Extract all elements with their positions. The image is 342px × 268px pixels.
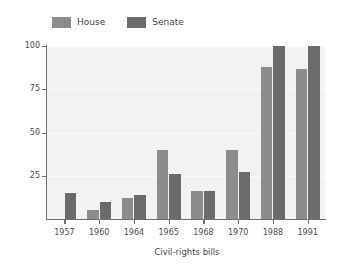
legend-entry-senate: Senate	[127, 17, 184, 28]
bar-house-1960	[87, 210, 99, 219]
y-tick: 75	[0, 89, 46, 90]
y-tick-mark	[42, 176, 46, 177]
bar-house-1965	[157, 150, 169, 219]
bar-senate-1988	[273, 46, 285, 219]
x-tick-mark	[308, 220, 309, 224]
y-tick: 25	[0, 176, 46, 177]
bar-house-1988	[261, 67, 273, 219]
bar-senate-1970	[239, 172, 251, 219]
bar-house-1991	[296, 69, 308, 220]
legend-swatch-senate	[127, 17, 146, 28]
x-tick-label-1964: 1964	[124, 228, 144, 237]
x-axis-line	[46, 219, 326, 220]
x-tick-label-1988: 1988	[263, 228, 283, 237]
legend-label-senate: Senate	[152, 17, 184, 28]
y-tick-label: 50	[30, 128, 40, 137]
y-tick-label: 25	[30, 171, 40, 180]
bar-chart: House Senate Percentage supporting bill …	[0, 0, 342, 268]
legend-entry-house: House	[52, 17, 105, 28]
bar-house-1968	[191, 191, 203, 219]
bar-senate-1960	[100, 202, 112, 219]
y-tick-mark	[42, 89, 46, 90]
plot-area	[47, 46, 325, 219]
y-tick-label: 100	[25, 41, 40, 50]
bar-senate-1965	[169, 174, 181, 219]
x-tick-mark	[99, 220, 100, 224]
y-tick-mark	[42, 46, 46, 47]
y-tick: 100	[0, 46, 46, 47]
x-tick-mark	[238, 220, 239, 224]
chart-legend: House Senate	[52, 15, 184, 29]
bar-house-1964	[122, 198, 134, 219]
x-tick-label-1991: 1991	[297, 228, 317, 237]
bar-senate-1991	[308, 46, 320, 219]
bar-senate-1964	[134, 195, 146, 219]
x-tick-mark	[134, 220, 135, 224]
legend-swatch-house	[52, 17, 71, 28]
y-axis-line	[46, 45, 47, 220]
legend-label-house: House	[77, 17, 105, 28]
y-tick: 50	[0, 133, 46, 134]
y-tick-label: 75	[30, 84, 40, 93]
bar-house-1970	[226, 150, 238, 219]
bar-senate-1968	[204, 191, 216, 219]
x-tick-label-1957: 1957	[54, 228, 74, 237]
x-tick-label-1968: 1968	[193, 228, 213, 237]
x-tick-mark	[273, 220, 274, 224]
x-tick-mark	[64, 220, 65, 224]
bar-senate-1957	[65, 193, 77, 219]
y-tick-mark	[42, 133, 46, 134]
x-axis-title: Civil-rights bills	[46, 247, 328, 257]
x-tick-mark	[169, 220, 170, 224]
x-tick-label-1965: 1965	[158, 228, 178, 237]
x-tick-label-1960: 1960	[89, 228, 109, 237]
x-tick-mark	[203, 220, 204, 224]
x-tick-label-1970: 1970	[228, 228, 248, 237]
